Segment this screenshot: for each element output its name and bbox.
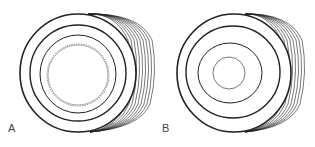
figure-a [20,14,155,132]
figure-b [177,14,305,132]
figure-a-label: A [8,122,15,134]
diagram-canvas [0,0,315,147]
figure-b-label: B [162,122,169,134]
figure-a-outer-wall [20,14,136,132]
figure-b-outer-wall [177,14,291,132]
